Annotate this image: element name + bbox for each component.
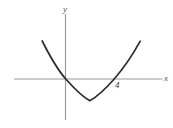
plot-background	[0, 0, 173, 128]
parabola-plot	[0, 0, 173, 128]
figure-container: y x 4	[0, 0, 173, 128]
x-axis-label: x	[164, 74, 168, 83]
y-axis-label: y	[63, 5, 67, 14]
x-tick-label-4: 4	[115, 81, 120, 90]
